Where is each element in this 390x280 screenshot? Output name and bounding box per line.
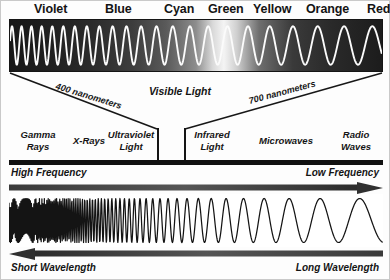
em-region-ultraviolet: Ultraviolet Light: [103, 129, 159, 152]
full-spectrum-wave-graphic: [9, 194, 383, 247]
visible-spectrum-band: [9, 19, 383, 72]
color-label-orange: Orange: [306, 2, 349, 16]
em-spectrum-bar: [9, 160, 383, 165]
em-region-infrared: Infrared Light: [184, 129, 240, 152]
arrow-left-icon: [9, 248, 383, 260]
diagram-canvas: Violet Blue Cyan Green Yellow Orange Red: [0, 0, 390, 280]
color-label-blue: Blue: [105, 2, 132, 16]
visible-light-funnel: [1, 71, 390, 131]
em-region-microwaves: Microwaves: [249, 135, 323, 147]
spectrum-wave-graphic: [10, 20, 382, 71]
em-region-radio-waves: Radio Waves: [329, 129, 383, 152]
short-wavelength-label: Short Wavelength: [11, 262, 96, 273]
em-region-gamma-rays: Gamma Rays: [9, 129, 67, 152]
frequency-arrow-right: [9, 182, 383, 194]
color-label-red: Red: [367, 2, 390, 16]
color-label-yellow: Yellow: [253, 2, 291, 16]
color-label-violet: Violet: [34, 2, 67, 16]
arrow-right-icon: [9, 182, 383, 194]
full-spectrum-wave: [9, 194, 383, 247]
visible-light-label: Visible Light: [149, 85, 211, 97]
visible-gap-tick-left: [157, 128, 159, 161]
low-frequency-label: Low Frequency: [306, 167, 379, 178]
wavelength-arrow-left: [9, 248, 383, 260]
color-label-green: Green: [208, 2, 244, 16]
visible-gap-tick-right: [184, 128, 186, 161]
color-label-cyan: Cyan: [164, 2, 194, 16]
high-frequency-label: High Frequency: [11, 167, 87, 178]
long-wavelength-label: Long Wavelength: [296, 262, 379, 273]
funnel-lines: [1, 71, 390, 131]
